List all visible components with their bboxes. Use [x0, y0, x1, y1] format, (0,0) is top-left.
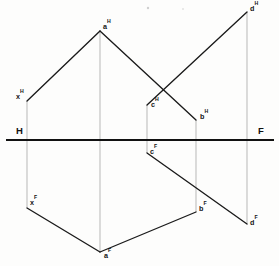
point-label-plane: F	[34, 194, 37, 200]
point-label-plane: F	[154, 143, 157, 149]
geometry-canvas: H F xHaHcHbHdHxFaFcFbFdF	[0, 0, 279, 266]
projection-diagram: H F xHaHcHbHdHxFaFcFbFdF	[0, 0, 279, 266]
axis-label-f: F	[258, 125, 264, 136]
point-label-plane: H	[20, 88, 24, 94]
paper-speck	[182, 8, 184, 10]
point-label-plane: H	[155, 96, 159, 102]
point-label-plane: F	[254, 214, 257, 220]
point-label-plane: H	[107, 18, 111, 24]
point-label-plane: F	[108, 247, 111, 253]
paper-speck	[147, 7, 149, 9]
axis-label-h: H	[16, 125, 23, 136]
point-label-plane: F	[203, 200, 206, 206]
point-label-plane: H	[254, 0, 258, 6]
canvas-background	[0, 0, 279, 266]
point-label-plane: H	[204, 108, 208, 114]
